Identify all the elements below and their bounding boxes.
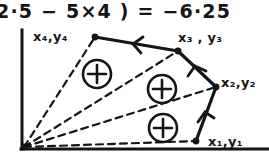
dashed-ray-to-v2 [24, 87, 216, 147]
plus-marker-2 [148, 75, 176, 103]
dashed-ray-to-v1 [24, 141, 196, 147]
vertex-dot-v3 [175, 48, 182, 55]
vertex-dot-v4 [92, 34, 99, 41]
vertex-dot-v1 [193, 138, 200, 145]
plus-marker-1 [83, 60, 111, 88]
figure-page: 2·5 − 5×4 ) = −6·25 [0, 0, 269, 162]
vertex-label-v1: x₁,y₁ [208, 134, 243, 149]
vertex-label-v4: x₄,y₄ [33, 29, 68, 44]
vertex-label-v3: x₃ , y₃ [178, 30, 222, 45]
vertex-dot-origin [21, 144, 28, 151]
plus-marker-3 [149, 114, 177, 142]
edge-v3-to-v2 [178, 51, 216, 87]
vertex-dot-v2 [213, 84, 220, 91]
dashed-rays-group [24, 37, 216, 147]
dashed-ray-to-v4 [24, 37, 95, 147]
vertex-label-v2: x₂,y₂ [221, 75, 256, 90]
vertex-dots-group [21, 34, 220, 151]
dashed-ray-to-v3 [24, 51, 178, 147]
